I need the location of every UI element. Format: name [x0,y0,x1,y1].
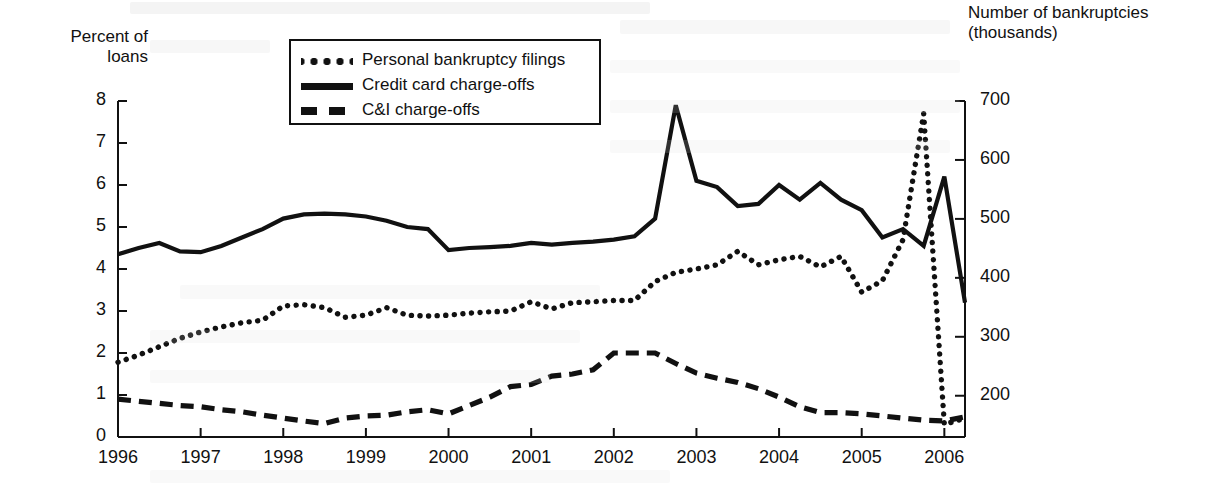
legend-swatch-dotted-icon [301,57,353,66]
x-tick-label: 2001 [496,447,566,468]
x-tick-label: 2006 [909,447,979,468]
left-tick-label: 7 [80,131,106,152]
x-tick-label: 1998 [248,447,318,468]
right-tick-label: 400 [980,266,1040,287]
left-tick-label: 5 [80,215,106,236]
legend-swatch-dashed-icon [301,107,353,115]
legend-label: Credit card charge-offs [362,75,535,95]
chart-legend: Personal bankruptcy filings Credit card … [289,39,601,125]
x-tick-label: 1996 [83,447,153,468]
right-axis-title: Number of bankruptcies (thousands) [968,3,1218,43]
right-tick-label: 600 [980,148,1040,169]
left-tick-label: 6 [80,173,106,194]
data-series [118,105,965,424]
x-tick-label: 2000 [414,447,484,468]
series-line-dotted [118,114,965,425]
legend-item: Personal bankruptcy filings [301,47,591,72]
x-tick-label: 2002 [579,447,649,468]
left-axis-title: Percent of loans [8,27,148,67]
left-tick-label: 4 [80,257,106,278]
series-line-dashed [118,353,965,424]
right-tick-label: 300 [980,325,1040,346]
plot-area [0,0,1225,498]
axes [118,101,965,437]
legend-label: Personal bankruptcy filings [362,50,565,70]
legend-swatch-solid-icon [301,83,353,90]
left-tick-label: 0 [80,425,106,446]
x-tick-label: 2004 [744,447,814,468]
x-tick-label: 1997 [166,447,236,468]
legend-item: C&I charge-offs [301,97,591,122]
left-tick-label: 2 [80,341,106,362]
legend-item: Credit card charge-offs [301,72,591,97]
series-line-solid [118,105,965,302]
right-tick-label: 700 [980,89,1040,110]
x-tick-label: 2005 [827,447,897,468]
right-tick-label: 200 [980,384,1040,405]
legend-label: C&I charge-offs [362,100,480,120]
x-tick-label: 2003 [661,447,731,468]
right-tick-label: 500 [980,207,1040,228]
left-tick-label: 8 [80,89,106,110]
chart-figure: Percent of loans Number of bankruptcies … [0,0,1225,498]
left-tick-label: 1 [80,383,106,404]
left-tick-label: 3 [80,299,106,320]
x-tick-label: 1999 [331,447,401,468]
